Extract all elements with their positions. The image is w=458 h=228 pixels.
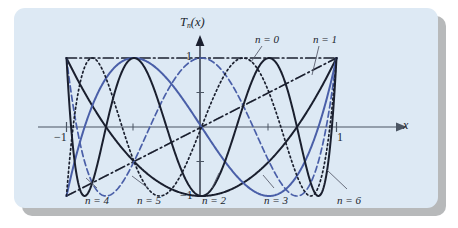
y-axis-arrowhead bbox=[196, 35, 205, 46]
callout-label-n0: n = 0 bbox=[255, 34, 279, 45]
figure-root: Tn(x) x −1 1 1 −1 n = 0 n = 1 n = 4 n = … bbox=[0, 0, 458, 228]
y-tick-label-minus1: −1 bbox=[180, 189, 193, 201]
callout-label-n5: n = 5 bbox=[137, 195, 161, 206]
callout-label-n6: n = 6 bbox=[337, 195, 361, 206]
y-tick-label-plus1: 1 bbox=[186, 50, 192, 62]
y-axis-label-arg: (x) bbox=[191, 15, 205, 29]
callout-label-n4: n = 4 bbox=[85, 195, 109, 206]
y-axis-label: Tn(x) bbox=[180, 16, 205, 29]
x-axis-label: x bbox=[403, 119, 408, 131]
callout-label-n1: n = 1 bbox=[313, 34, 337, 45]
leader-n5 bbox=[132, 176, 148, 188]
leader-n6 bbox=[327, 170, 347, 189]
y-axis-label-main: T bbox=[180, 15, 187, 29]
chebyshev-plot bbox=[0, 0, 458, 228]
x-tick-label-minus1: −1 bbox=[54, 131, 67, 143]
leader-n0 bbox=[251, 46, 262, 62]
callout-label-n3: n = 3 bbox=[264, 195, 288, 206]
leader-n1 bbox=[312, 46, 319, 75]
callout-label-n2: n = 2 bbox=[202, 195, 226, 206]
x-tick-label-plus1: 1 bbox=[337, 131, 343, 143]
callout-leaders bbox=[86, 46, 347, 189]
leader-n3 bbox=[263, 175, 274, 188]
